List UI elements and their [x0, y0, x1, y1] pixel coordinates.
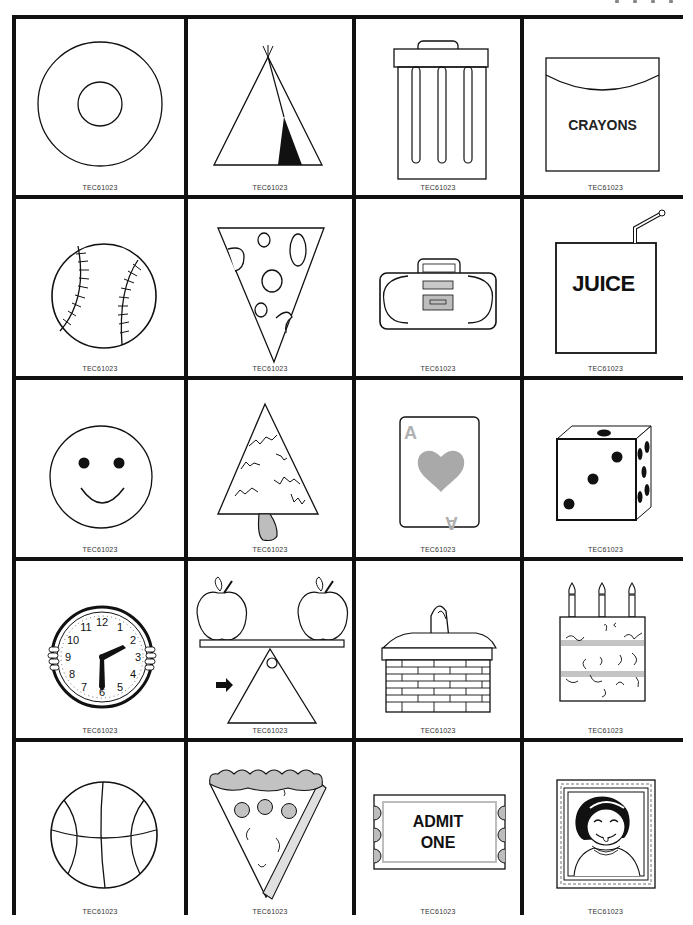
- trash-can-icon: [356, 19, 520, 195]
- card-code: TEC61023: [524, 365, 687, 372]
- card-clock[interactable]: 12 1 2 3 4 5 6 7 8 9 10 11: [16, 561, 184, 738]
- baseball-icon: [16, 199, 184, 376]
- card-trash-can[interactable]: TEC61023: [356, 19, 520, 195]
- svg-text:11: 11: [80, 621, 91, 633]
- card-ticket[interactable]: ADMIT ONE TEC61023: [356, 742, 520, 919]
- pizza-slice-icon: [188, 742, 352, 919]
- card-code: TEC61023: [16, 908, 184, 915]
- card-code: TEC61023: [524, 727, 687, 734]
- svg-text:3: 3: [135, 651, 141, 663]
- die-icon: [524, 380, 687, 557]
- teepee-icon: [188, 19, 352, 195]
- cheese-wedge-icon: [188, 199, 352, 376]
- top-edge-marks: [615, 0, 673, 6]
- crayons-label: CRAYONS: [524, 117, 681, 133]
- card-code: TEC61023: [524, 184, 687, 191]
- card-code: TEC61023: [356, 908, 520, 915]
- pine-tree-icon: [188, 380, 352, 557]
- birthday-cake-icon: [524, 561, 687, 738]
- svg-text:7: 7: [81, 681, 87, 693]
- boombox-icon: [356, 199, 520, 376]
- basket-icon: [356, 561, 520, 738]
- card-donut[interactable]: TEC61023: [16, 19, 184, 195]
- card-code: TEC61023: [16, 727, 184, 734]
- svg-text:A: A: [445, 513, 458, 533]
- card-code: TEC61023: [356, 184, 520, 191]
- card-juice-box[interactable]: JUICE TEC61023: [524, 199, 687, 376]
- svg-text:12: 12: [96, 616, 108, 628]
- card-code: TEC61023: [16, 184, 184, 191]
- card-code: TEC61023: [16, 546, 184, 553]
- svg-text:A: A: [404, 423, 417, 443]
- card-code: TEC61023: [524, 546, 687, 553]
- svg-text:5: 5: [117, 681, 123, 693]
- juice-label: JUICE: [524, 271, 683, 297]
- card-code: TEC61023: [356, 365, 520, 372]
- card-basketball[interactable]: TEC61023: [16, 742, 184, 919]
- svg-text:8: 8: [69, 668, 75, 680]
- card-code: TEC61023: [188, 546, 352, 553]
- card-framed-portrait[interactable]: TEC61023: [524, 742, 687, 919]
- card-code: TEC61023: [188, 365, 352, 372]
- admit-line: ADMIT: [356, 811, 520, 832]
- admit-one-label: ADMIT ONE: [356, 811, 520, 853]
- card-ace-of-hearts[interactable]: A A TEC61023: [356, 380, 520, 557]
- card-balance-scale-apples[interactable]: TEC61023: [188, 561, 352, 738]
- smiley-face-icon: [16, 380, 184, 557]
- card-code: TEC61023: [356, 727, 520, 734]
- card-code: TEC61023: [188, 727, 352, 734]
- svg-text:1: 1: [117, 621, 123, 633]
- card-teepee[interactable]: TEC61023: [188, 19, 352, 195]
- card-boombox[interactable]: TEC61023: [356, 199, 520, 376]
- donut-icon: [16, 19, 184, 195]
- card-pizza-slice[interactable]: TEC61023: [188, 742, 352, 919]
- svg-text:4: 4: [130, 668, 136, 680]
- framed-portrait-icon: [524, 742, 687, 919]
- card-pine-tree[interactable]: TEC61023: [188, 380, 352, 557]
- picture-card-grid: TEC61023 TEC61023 TEC61023 CRAYONS: [12, 15, 683, 915]
- card-baseball[interactable]: TEC61023: [16, 199, 184, 376]
- one-line: ONE: [356, 832, 520, 853]
- svg-text:10: 10: [67, 634, 79, 646]
- card-code: TEC61023: [356, 546, 520, 553]
- card-code: TEC61023: [524, 908, 687, 915]
- card-basket[interactable]: TEC61023: [356, 561, 520, 738]
- card-code: TEC61023: [188, 184, 352, 191]
- crayon-box-icon: [524, 19, 687, 195]
- clock-icon: 12 1 2 3 4 5 6 7 8 9 10 11: [16, 561, 184, 738]
- card-code: TEC61023: [16, 365, 184, 372]
- card-smiley-face[interactable]: TEC61023: [16, 380, 184, 557]
- card-crayon-box[interactable]: CRAYONS TEC61023: [524, 19, 687, 195]
- balance-scale-apples-icon: [188, 561, 352, 738]
- card-birthday-cake[interactable]: TEC61023: [524, 561, 687, 738]
- svg-text:9: 9: [65, 651, 71, 663]
- ace-of-hearts-icon: A A: [356, 380, 520, 557]
- card-cheese-wedge[interactable]: TEC61023: [188, 199, 352, 376]
- card-code: TEC61023: [188, 908, 352, 915]
- svg-text:2: 2: [130, 634, 136, 646]
- card-die[interactable]: TEC61023: [524, 380, 687, 557]
- basketball-icon: [16, 742, 184, 919]
